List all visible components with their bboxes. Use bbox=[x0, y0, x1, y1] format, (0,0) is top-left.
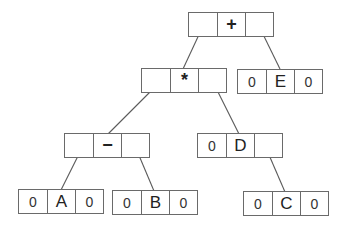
operator-plus: + bbox=[217, 13, 245, 36]
tree-node-plus: + bbox=[188, 12, 274, 37]
operand-B: B bbox=[141, 191, 169, 214]
left-pointer-cell bbox=[65, 134, 93, 157]
right-pointer-cell: 0 bbox=[169, 191, 197, 214]
operand-D: D bbox=[226, 134, 254, 157]
operand-C: C bbox=[272, 192, 300, 215]
left-pointer-cell: 0 bbox=[244, 192, 272, 215]
tree-node-D: 0 D bbox=[197, 133, 283, 158]
left-pointer-cell bbox=[189, 13, 217, 36]
right-pointer-cell bbox=[121, 134, 149, 157]
right-pointer-cell bbox=[198, 69, 226, 92]
tree-node-B: 0 B 0 bbox=[112, 190, 198, 215]
left-pointer-cell bbox=[142, 69, 170, 92]
tree-node-C: 0 C 0 bbox=[243, 191, 329, 216]
operand-A: A bbox=[47, 190, 75, 213]
left-pointer-cell: 0 bbox=[113, 191, 141, 214]
left-pointer-cell: 0 bbox=[19, 190, 47, 213]
operator-times: * bbox=[170, 69, 198, 92]
right-pointer-cell: 0 bbox=[75, 190, 103, 213]
tree-node-E: 0 E 0 bbox=[237, 69, 323, 94]
left-pointer-cell: 0 bbox=[238, 70, 266, 93]
left-pointer-cell: 0 bbox=[198, 134, 226, 157]
right-pointer-cell: 0 bbox=[294, 70, 322, 93]
operator-minus: − bbox=[93, 134, 121, 157]
tree-node-times: * bbox=[141, 68, 227, 93]
right-pointer-cell bbox=[254, 134, 282, 157]
operand-E: E bbox=[266, 70, 294, 93]
tree-node-minus: − bbox=[64, 133, 150, 158]
tree-node-A: 0 A 0 bbox=[18, 189, 104, 214]
right-pointer-cell bbox=[245, 13, 273, 36]
right-pointer-cell: 0 bbox=[300, 192, 328, 215]
